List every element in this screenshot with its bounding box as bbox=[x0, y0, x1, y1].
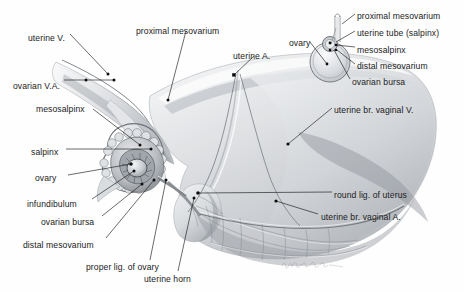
label-mesosalpinx: mesosalpinx bbox=[36, 104, 85, 114]
dot-uterine-br-a bbox=[274, 199, 277, 202]
inset-schematic bbox=[310, 14, 350, 82]
leader-inset-proximal bbox=[342, 14, 355, 24]
label-inset-proximal-mesovarium: proximal mesovarium bbox=[357, 11, 440, 21]
dot-uterine-v bbox=[107, 73, 110, 76]
dot-proximal-mesovarium bbox=[167, 99, 170, 102]
dot-inset-mesosalpinx bbox=[335, 44, 338, 47]
label-proper-lig-of-ovary: proper lig. of ovary bbox=[86, 262, 159, 272]
label-infundibulum: infundibulum bbox=[27, 199, 77, 209]
label-inset-uterine-tube: uterine tube (salpinx) bbox=[357, 28, 439, 38]
dot-uterine-horn bbox=[193, 197, 196, 200]
label-inset-ovarian-bursa: ovarian bursa bbox=[352, 77, 405, 87]
anatomical-figure: uterine V. proximal mesovarium uterine A… bbox=[0, 0, 464, 292]
label-inset-distal-mesovarium: distal mesovarium bbox=[357, 61, 428, 71]
label-salpinx: salpinx bbox=[31, 147, 58, 157]
dot-mesosalpinx bbox=[139, 144, 142, 147]
label-uterine-br-vaginal-v: uterine br. vaginal V. bbox=[334, 105, 413, 115]
label-uterine-v: uterine V. bbox=[28, 33, 65, 43]
dot-distal-mesovarium bbox=[153, 179, 156, 182]
inset-tube-fill bbox=[335, 17, 339, 42]
label-round-lig-of-uterus: round lig. of uterus bbox=[334, 190, 407, 200]
dot-ovarian-va-mid bbox=[85, 79, 88, 82]
dot-inset-bursa bbox=[329, 49, 332, 52]
label-distal-mesovarium: distal mesovarium bbox=[23, 240, 94, 250]
dot-uterine-br-v bbox=[286, 142, 289, 145]
dot-proper-lig bbox=[165, 179, 168, 182]
dot-uterine-a bbox=[232, 73, 235, 76]
inset-tube-hook bbox=[335, 14, 340, 17]
dot-infundibulum bbox=[133, 170, 136, 173]
label-uterine-br-vaginal-a: uterine br. vaginal A. bbox=[321, 212, 401, 222]
ovary bbox=[127, 159, 147, 177]
dot-ovarian-va bbox=[113, 79, 116, 82]
dot-salpinx bbox=[150, 148, 153, 151]
dot-ovarian-bursa bbox=[141, 183, 144, 186]
label-proximal-mesovarium: proximal mesovarium bbox=[136, 26, 219, 36]
dot-inset-ovary bbox=[326, 63, 329, 66]
label-uterine-a: uterine A. bbox=[233, 51, 270, 61]
dot-inset-tube bbox=[329, 42, 332, 45]
label-ovary: ovary bbox=[35, 173, 56, 183]
label-inset-ovary: ovary bbox=[289, 38, 310, 48]
label-inset-mesosalpinx: mesosalpinx bbox=[357, 45, 406, 55]
leader-proper-lig bbox=[150, 180, 166, 260]
label-ovarian-bursa: ovarian bursa bbox=[41, 217, 94, 227]
dot-ovary bbox=[129, 162, 133, 166]
label-uterine-horn: uterine horn bbox=[144, 274, 191, 284]
dot-round-lig bbox=[196, 191, 200, 195]
label-ovarian-va: ovarian V.A. bbox=[13, 81, 60, 91]
leader-uterine-v bbox=[70, 34, 108, 74]
dot-inset-distal bbox=[335, 49, 338, 52]
